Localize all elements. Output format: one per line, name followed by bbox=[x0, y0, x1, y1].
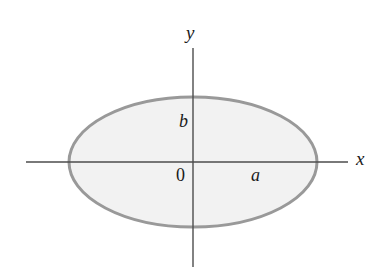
origin-label: 0 bbox=[176, 166, 185, 184]
x-axis-label: x bbox=[356, 149, 364, 168]
semi-minor-axis-label: b bbox=[179, 112, 188, 130]
figure-canvas bbox=[0, 0, 389, 267]
ellipse-figure: y x b a 0 bbox=[0, 0, 389, 267]
semi-major-axis-label: a bbox=[251, 166, 260, 184]
y-axis-label: y bbox=[186, 23, 194, 42]
